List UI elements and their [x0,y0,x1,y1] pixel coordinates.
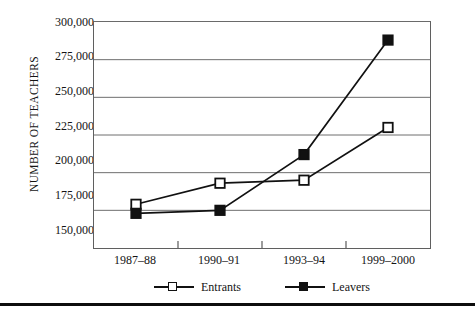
bottom-rule [0,303,475,306]
x-tick-label: 1999–2000 [342,253,434,268]
x-tick-label: 1993–94 [258,253,350,268]
y-tick-label: 300,000 [32,16,94,28]
gridlines [94,60,430,211]
y-tick-label: 275,000 [32,50,94,62]
chart-canvas [94,22,430,248]
series-markers [131,35,392,218]
plot-area [93,21,431,249]
x-tick-label: 1990–91 [173,253,265,268]
legend-entry-entrants: Entrants [154,280,241,295]
chart-legend: Entrants Leavers [93,276,431,298]
legend-entry-leavers: Leavers [285,280,370,295]
series-lines [136,40,388,213]
data-point-entrants-3 [383,123,392,132]
series-line-leavers [136,40,388,213]
y-tick-label: 225,000 [32,120,94,132]
x-axis-ticks [178,241,346,248]
chart-figure: NUMBER OF TEACHERS 300,000 275,000 250,0… [0,0,475,315]
data-point-leavers-3 [383,35,392,44]
legend-marker-filled-square-icon [285,281,325,293]
data-point-entrants-0 [131,200,140,209]
data-point-leavers-0 [131,209,140,218]
legend-label: Entrants [201,280,241,295]
y-tick-label: 200,000 [32,154,94,166]
series-line-entrants [136,127,388,204]
legend-marker-open-square-icon [154,281,194,293]
data-point-entrants-2 [299,175,308,184]
data-point-leavers-2 [299,150,308,159]
y-tick-label: 175,000 [32,189,94,201]
x-tick-label: 1987–88 [89,253,181,268]
data-point-leavers-1 [215,206,224,215]
y-tick-label: 250,000 [32,85,94,97]
legend-label: Leavers [332,280,370,295]
y-tick-label: 150,000 [32,224,94,236]
data-point-entrants-1 [215,179,224,188]
